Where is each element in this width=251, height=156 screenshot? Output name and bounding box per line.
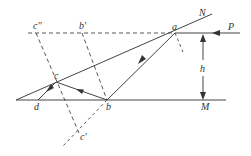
label-b-prime: b′: [79, 20, 87, 31]
reflection-diagram: c″ b′ a N P h c d b M c′: [0, 0, 251, 156]
label-c-prime: c′: [80, 131, 87, 142]
label-p: P: [227, 21, 234, 32]
label-b: b: [106, 101, 111, 112]
label-m: M: [200, 101, 210, 112]
dashed-bprime-b: [82, 33, 107, 100]
arrow-left-icon: [76, 89, 84, 94]
diagram-canvas: c″ b′ a N P h c d b M c′: [0, 0, 251, 156]
label-d: d: [34, 101, 40, 112]
arrow-up-icon: [200, 34, 206, 42]
label-a: a: [172, 21, 177, 32]
label-c: c: [54, 70, 59, 81]
mirror-n: [16, 14, 212, 100]
arrow-left-icon: [212, 30, 220, 36]
label-n: N: [198, 7, 207, 18]
ray-a-b: [107, 33, 175, 100]
label-h: h: [200, 63, 205, 74]
label-c-double-prime: c″: [33, 20, 42, 31]
arrow-down-icon: [200, 92, 206, 100]
normal-at-a: [175, 33, 183, 52]
